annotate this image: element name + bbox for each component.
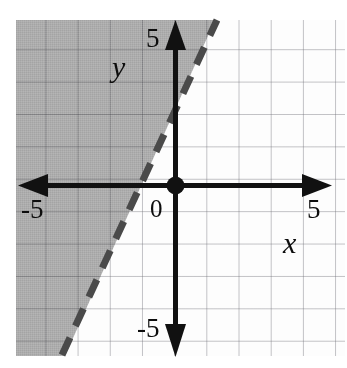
x-axis-tick-label-right: 5 xyxy=(307,196,321,223)
graph-figure: 5 -5 -5 5 0 y x xyxy=(0,0,347,368)
y-axis-top-arrowhead xyxy=(165,20,186,50)
origin-dot xyxy=(167,177,185,195)
y-axis-tick-label-bottom: -5 xyxy=(137,315,160,342)
x-axis-tick-label-left: -5 xyxy=(21,196,44,223)
x-axis-label: x xyxy=(283,228,296,258)
y-axis-label: y xyxy=(112,52,125,82)
y-axis-bottom-arrowhead xyxy=(165,324,186,357)
origin-label: 0 xyxy=(150,196,163,221)
axes-layer xyxy=(0,0,347,368)
y-axis-tick-label-top: 5 xyxy=(146,25,160,52)
